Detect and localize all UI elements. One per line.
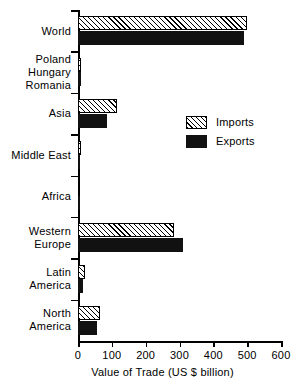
category-tick: [71, 10, 78, 12]
x-tick: [213, 341, 215, 347]
plot-area: [78, 10, 281, 341]
category-label-1: Poland Hungary Romania: [26, 53, 71, 92]
legend-label-imports: Imports: [216, 116, 254, 129]
bar-imports-3: [78, 141, 81, 155]
category-tick: [71, 258, 78, 260]
bar-imports-5: [78, 223, 174, 237]
x-tick: [78, 341, 80, 347]
category-tick: [71, 93, 78, 95]
bar-exports-5: [78, 238, 183, 252]
x-tick: [112, 341, 114, 347]
legend-item-imports: Imports: [186, 113, 255, 132]
x-tick-label-0: 0: [75, 349, 81, 362]
category-label-3: Middle East: [11, 148, 71, 161]
x-axis-title: Value of Trade (US $ billion): [0, 366, 297, 378]
legend-label-exports: Exports: [216, 135, 255, 148]
x-tick-label-100: 100: [102, 349, 121, 362]
x-tick-label-500: 500: [238, 349, 257, 362]
bar-exports-1: [78, 72, 81, 86]
x-tick: [281, 341, 283, 347]
bar-exports-0: [78, 31, 244, 45]
bar-imports-7: [78, 306, 100, 320]
category-tick: [71, 217, 78, 219]
x-tick-label-200: 200: [136, 349, 155, 362]
chart-legend: Imports Exports: [186, 113, 255, 151]
category-label-4: Africa: [42, 190, 71, 203]
bar-exports-2: [78, 114, 107, 128]
bar-imports-2: [78, 99, 117, 113]
category-label-2: Asia: [49, 107, 71, 120]
bar-imports-0: [78, 16, 247, 30]
bar-imports-4: [78, 182, 80, 196]
bar-imports-6: [78, 265, 85, 279]
category-label-0: World: [41, 24, 71, 37]
x-tick-label-600: 600: [272, 349, 291, 362]
exports-swatch-icon: [186, 135, 207, 148]
imports-swatch-icon: [186, 116, 207, 129]
x-tick: [146, 341, 148, 347]
bar-exports-7: [78, 321, 97, 335]
bar-exports-3: [78, 155, 80, 169]
bar-chart: WorldPoland Hungary RomaniaAsiaMiddle Ea…: [0, 0, 297, 392]
category-tick: [71, 176, 78, 178]
bar-exports-6: [78, 279, 83, 293]
category-tick: [71, 51, 78, 53]
legend-item-exports: Exports: [186, 132, 255, 151]
bar-exports-4: [78, 196, 80, 210]
x-tick: [180, 341, 182, 347]
category-tick: [71, 134, 78, 136]
bar-imports-1: [78, 58, 81, 72]
category-label-7: North America: [29, 307, 71, 333]
x-tick-label-400: 400: [204, 349, 223, 362]
x-tick: [247, 341, 249, 347]
x-tick-label-300: 300: [170, 349, 189, 362]
category-label-6: Latin America: [29, 266, 71, 292]
category-label-5: Western Europe: [29, 225, 71, 251]
category-tick: [71, 300, 78, 302]
